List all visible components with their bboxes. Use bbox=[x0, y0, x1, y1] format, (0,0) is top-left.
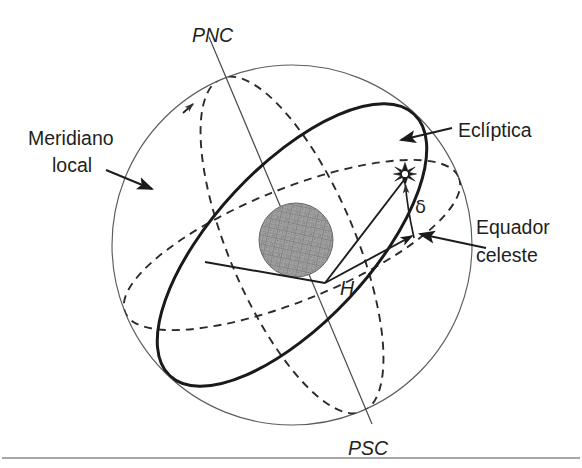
meridian-direction-tick bbox=[183, 104, 193, 113]
label-declination: δ bbox=[415, 196, 426, 217]
label-pnc: PNC bbox=[192, 24, 234, 46]
label-psc: PSC bbox=[348, 437, 389, 459]
earth-sphere bbox=[259, 203, 333, 277]
star-marker bbox=[394, 163, 417, 186]
label-ecliptic: Eclíptica bbox=[458, 119, 532, 141]
star-core bbox=[402, 171, 408, 177]
label-equator-line1: Equador bbox=[476, 216, 550, 238]
figure-container: PNC PSC Meridiano local Eclíptica Equado… bbox=[0, 0, 582, 468]
hour-angle-ray-to-star bbox=[325, 180, 404, 283]
label-hour-angle: H bbox=[340, 277, 355, 299]
celestial-sphere-diagram: PNC PSC Meridiano local Eclíptica Equado… bbox=[0, 0, 582, 468]
label-meridian-line2: local bbox=[52, 154, 92, 176]
label-equator-line2: celeste bbox=[476, 244, 538, 266]
label-meridian-line1: Meridiano bbox=[28, 127, 114, 149]
meridian-leader-arrow bbox=[106, 170, 152, 189]
